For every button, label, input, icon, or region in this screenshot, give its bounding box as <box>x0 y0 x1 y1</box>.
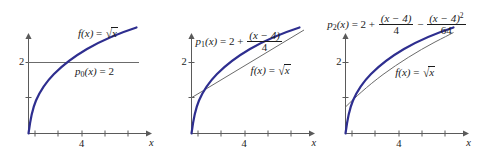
sqrt-expression: √x <box>278 64 291 76</box>
p-equals: = <box>220 35 226 47</box>
y-tick-label-2: 2 <box>19 57 24 68</box>
x-axis-label: x <box>149 138 154 149</box>
radicand: x <box>111 27 118 39</box>
series-sqrt-curve <box>346 28 454 134</box>
f-equals: = <box>269 64 275 76</box>
function-label-f: f(x) = √x <box>395 66 435 78</box>
p-linear-fraction: (x − 4) 4 <box>379 13 414 36</box>
fraction-denominator: 64 <box>427 24 465 36</box>
x-tick-label-4: 4 <box>79 139 84 150</box>
p-equals: = <box>99 65 105 77</box>
approximation-label-p2: p2(x) = 2 + (x − 4) 4 − (x − 4)2 64 <box>327 12 466 36</box>
radicand: x <box>428 66 435 78</box>
f-equals: = <box>96 27 102 39</box>
fraction-denominator: 4 <box>247 41 282 53</box>
p-close-paren: ) <box>93 65 97 77</box>
radicand: x <box>284 64 291 76</box>
taylor-approximation-figure: 2 4 x f(x) = √x p0(x) = 2 <box>0 0 488 155</box>
panel-first-order-plot <box>163 0 326 155</box>
series-sqrt-curve <box>29 28 137 134</box>
x-axis-arrow <box>463 130 469 136</box>
y-axis-arrow <box>25 33 31 39</box>
f-close-paren: ) <box>407 66 411 78</box>
panel-first-order: 2 4 x p1(x) = 2 + (x − 4) 4 f(x) = √x <box>163 0 326 155</box>
f-close-paren: ) <box>90 27 94 39</box>
function-label-f: f(x) = √x <box>251 64 291 76</box>
numerator-base: (x − 4) <box>429 12 460 24</box>
fraction-numerator: (x − 4)2 <box>427 12 465 24</box>
x-axis <box>345 131 463 137</box>
y-axis-arrow <box>188 33 194 39</box>
radical-sign: √ <box>279 64 285 77</box>
x-axis <box>191 131 309 137</box>
fraction-numerator: (x − 4) <box>379 13 414 24</box>
p-plus-operator: + <box>369 18 375 30</box>
function-label-f: f(x) = √x <box>78 27 118 39</box>
panel-zeroth-order: 2 4 x f(x) = √x p0(x) = 2 <box>0 0 163 155</box>
y-tick-label-2: 2 <box>182 57 187 68</box>
fraction-denominator: 4 <box>379 24 414 36</box>
p-plus-operator: + <box>237 35 243 47</box>
p-constant-term: 2 <box>361 18 367 30</box>
approximation-label-p1: p1(x) = 2 + (x − 4) 4 <box>196 30 283 53</box>
x-axis-arrow <box>309 130 315 136</box>
p-linear-fraction: (x − 4) 4 <box>247 30 282 53</box>
p-equals: = <box>352 18 358 30</box>
approximation-label-p0: p0(x) = 2 <box>75 66 114 79</box>
p-minus-operator: − <box>417 18 423 30</box>
x-axis-label: x <box>466 138 471 149</box>
sqrt-expression: √x <box>422 66 435 78</box>
f-equals: = <box>413 66 419 78</box>
numerator-exponent: 2 <box>460 11 464 20</box>
panel-second-order: 2 4 x p2(x) = 2 + (x − 4) 4 − (x − 4)2 6… <box>325 0 488 155</box>
x-tick-label-4: 4 <box>242 139 247 150</box>
fraction-numerator: (x − 4) <box>247 30 282 41</box>
sqrt-expression: √x <box>105 27 118 39</box>
p-rhs-constant: 2 <box>108 65 114 77</box>
p-close-paren: ) <box>345 18 349 30</box>
y-tick-label-2: 2 <box>336 57 341 68</box>
x-tick-label-4: 4 <box>396 139 401 150</box>
radical-sign: √ <box>423 66 429 79</box>
p-constant-term: 2 <box>229 35 235 47</box>
x-axis <box>28 131 146 137</box>
x-axis-arrow <box>146 130 152 136</box>
f-close-paren: ) <box>262 64 266 76</box>
p-quadratic-fraction: (x − 4)2 64 <box>427 12 465 36</box>
radical-sign: √ <box>106 27 112 40</box>
x-axis-label: x <box>312 138 317 149</box>
p-close-paren: ) <box>214 35 218 47</box>
